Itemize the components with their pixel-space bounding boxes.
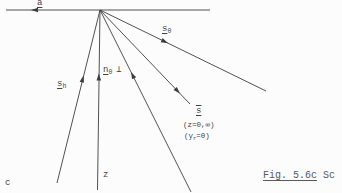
s0-vector-label: s0	[162, 24, 171, 34]
surface-normal-line	[98, 10, 101, 190]
s0-arrowhead	[161, 38, 168, 43]
caption-line-1: Fig. 5.6c Sc	[263, 171, 341, 181]
s0-vector-sub: 0	[167, 28, 171, 35]
caption-fig-number: Fig. 5.6c	[263, 170, 317, 181]
condition-y-post: =0)	[196, 132, 210, 140]
a-vector-label: a	[37, 0, 42, 8]
sh-arrowhead	[80, 76, 84, 83]
condition-z-label: (z≈0,∞)	[183, 121, 215, 130]
a-direction-arrowhead	[31, 8, 38, 13]
condition-y-label: (yr=0)	[184, 132, 210, 141]
panel-letter-label: c	[5, 178, 10, 188]
sh-vector-sub: h	[62, 83, 66, 90]
normal-arrowhead	[97, 74, 102, 81]
z-axis-label: z	[103, 170, 108, 180]
internal-ray	[100, 10, 191, 192]
s-vector-label: s	[196, 106, 201, 116]
s0-ray	[100, 10, 266, 91]
figure-caption: Fig. 5.6c Sc rical reflect ψh = +11°	[263, 151, 341, 193]
a-vector-base: a	[37, 0, 42, 8]
caption-line-1-rest: Sc	[317, 170, 335, 181]
internal-ray-arrowhead	[131, 72, 136, 79]
figure-panel: a s0 sh n0⊥ z s (z≈0,∞) (yr=0) c Fig. 5.…	[0, 0, 342, 193]
sh-ray	[57, 10, 100, 183]
s-vector-base: s	[196, 106, 201, 116]
sh-vector-label: sh	[57, 79, 66, 89]
n0-normal-label: n0⊥	[103, 65, 122, 75]
condition-y-pre: (y	[184, 132, 193, 140]
n0-vector-sub: 0	[108, 69, 112, 76]
perpendicular-symbol: ⊥	[116, 65, 121, 75]
